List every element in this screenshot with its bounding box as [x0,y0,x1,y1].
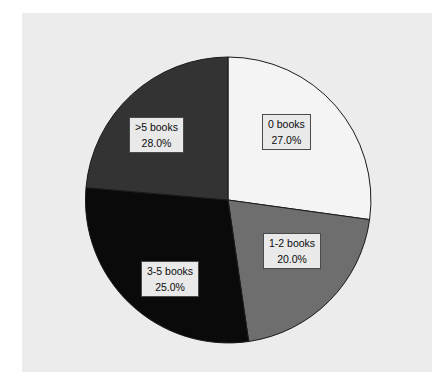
pie-label-0books: 0 books 27.0% [262,114,311,150]
pie-wedge-12books[interactable] [228,200,370,342]
pie-label-12books-percent: 20.0% [269,254,315,265]
pie-label-0books-name: 0 books [268,119,305,130]
pie-label-35books-percent: 25.0% [147,282,193,293]
pie-chart [0,0,448,390]
pie-label-35books-name: 3-5 books [147,266,193,277]
pie-label-0books-percent: 27.0% [268,135,305,146]
pie-label-5books-percent: 28.0% [135,138,178,149]
pie-label-12books: 1-2 books 20.0% [263,233,321,269]
pie-label-35books: 3-5 books 25.0% [141,261,199,297]
pie-label-5books: >5 books 28.0% [129,117,184,153]
figure-canvas: 0 books 27.0% 1-2 books 20.0% 3-5 books … [0,0,448,390]
pie-label-5books-name: >5 books [135,122,178,133]
pie-label-12books-name: 1-2 books [269,238,315,249]
